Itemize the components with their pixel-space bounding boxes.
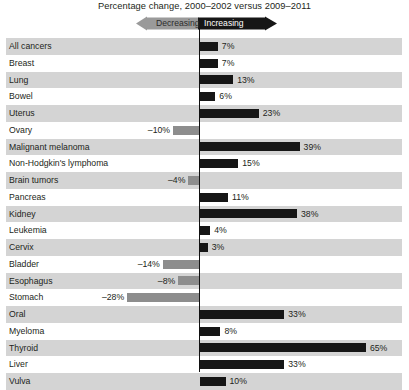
row-label: Leukemia — [9, 225, 47, 236]
value-bar — [178, 276, 198, 285]
value-label: 15% — [242, 158, 259, 169]
value-bar — [200, 159, 238, 168]
chart-row: Bowel6% — [0, 88, 409, 105]
value-bar — [200, 310, 284, 319]
row-label: Stomach — [9, 292, 43, 303]
row-label: Pancreas — [9, 192, 46, 203]
chart-row: Uterus23% — [0, 105, 409, 122]
chart-row: Oral33% — [0, 306, 409, 323]
value-bar — [200, 193, 228, 202]
row-label: Liver — [9, 359, 28, 370]
zero-axis-line — [199, 29, 201, 372]
row-label: All cancers — [9, 41, 52, 52]
value-label: 13% — [237, 75, 254, 86]
value-label: –28% — [102, 292, 124, 303]
value-bar — [200, 42, 218, 51]
row-label: Breast — [9, 58, 34, 69]
chart-row: Breast7% — [0, 55, 409, 72]
chart-row: Brain tumors–4% — [0, 172, 409, 189]
value-label: 23% — [263, 108, 280, 119]
chart-row: All cancers7% — [0, 38, 409, 55]
chart-row: Lung13% — [0, 72, 409, 89]
row-label: Uterus — [9, 108, 35, 119]
value-label: –8% — [158, 276, 175, 287]
row-background — [6, 273, 402, 290]
row-label: Lung — [9, 75, 28, 86]
value-label: –4% — [168, 175, 185, 186]
row-label: Ovary — [9, 125, 32, 136]
value-bar — [200, 226, 210, 235]
chart-row: Thyroid65% — [0, 340, 409, 357]
value-bar — [127, 293, 198, 302]
row-label: Thyroid — [9, 343, 38, 354]
row-background — [6, 289, 402, 306]
chart-row: Stomach–28% — [0, 289, 409, 306]
row-label: Brain tumors — [9, 175, 58, 186]
value-bar — [200, 343, 366, 352]
value-label: 65% — [370, 343, 387, 354]
chart-row: Esophagus–8% — [0, 273, 409, 290]
value-bar — [200, 243, 208, 252]
value-bar — [200, 75, 233, 84]
row-label: Bowel — [9, 91, 33, 102]
chart-title: Percentage change, 2000–2002 versus 2009… — [0, 1, 409, 11]
row-background — [6, 256, 402, 273]
value-label: 11% — [232, 192, 249, 203]
row-label: Myeloma — [9, 326, 44, 337]
row-background — [6, 122, 402, 139]
chart-row: Kidney38% — [0, 206, 409, 223]
row-label: Non-Hodgkin's lymphoma — [9, 158, 108, 169]
row-label: Malignant melanoma — [9, 142, 90, 153]
direction-arrow-banner: Decreasing Increasing — [136, 16, 277, 31]
value-bar — [200, 59, 218, 68]
chart-rows: All cancers7%Breast7%Lung13%Bowel6%Uteru… — [0, 38, 409, 390]
value-label: 8% — [224, 326, 237, 337]
chart-row: Leukemia4% — [0, 222, 409, 239]
chart-row: Non-Hodgkin's lymphoma15% — [0, 155, 409, 172]
chart-row: Pancreas11% — [0, 189, 409, 206]
value-label: 4% — [214, 225, 227, 236]
value-bar — [200, 109, 259, 118]
value-bar — [200, 92, 215, 101]
row-label: Cervix — [9, 242, 34, 253]
chart-row: Malignant melanoma39% — [0, 139, 409, 156]
value-label: 6% — [219, 91, 232, 102]
chart-row: Ovary–10% — [0, 122, 409, 139]
value-label: 33% — [288, 359, 305, 370]
row-label: Kidney — [9, 209, 36, 220]
row-background — [6, 172, 402, 189]
value-bar — [200, 327, 220, 336]
chart-row: Vulva10% — [0, 373, 409, 390]
row-label: Esophagus — [9, 276, 52, 287]
row-label: Vulva — [9, 376, 30, 387]
value-label: 39% — [304, 142, 321, 153]
value-label: –10% — [148, 125, 170, 136]
decreasing-label: Decreasing — [156, 18, 199, 28]
value-label: 3% — [212, 242, 225, 253]
value-label: 7% — [222, 41, 235, 52]
chart-row: Bladder–14% — [0, 256, 409, 273]
value-label: 10% — [230, 376, 247, 387]
value-label: –14% — [138, 259, 160, 270]
value-label: 38% — [301, 209, 318, 220]
value-bar — [200, 142, 300, 151]
value-bar — [200, 377, 226, 386]
value-bar — [188, 176, 198, 185]
increasing-label: Increasing — [204, 18, 244, 28]
row-label: Bladder — [9, 259, 39, 270]
chart-row: Liver33% — [0, 356, 409, 373]
value-bar — [173, 126, 199, 135]
value-label: 33% — [288, 309, 305, 320]
value-label: 7% — [222, 58, 235, 69]
value-bar — [200, 209, 297, 218]
value-bar — [163, 260, 199, 269]
chart-row: Cervix3% — [0, 239, 409, 256]
row-label: Oral — [9, 309, 25, 320]
value-bar — [200, 360, 284, 369]
chart-row: Myeloma8% — [0, 323, 409, 340]
